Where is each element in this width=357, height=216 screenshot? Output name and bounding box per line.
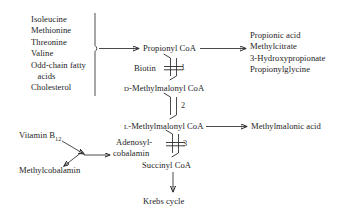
cofactor-adenosylcobalamin-line1: Adenosyl- <box>116 137 152 148</box>
reaction-number-1: 1 <box>181 63 185 72</box>
product-list: Propionic acid Methylcitrate 3-Hydroxypr… <box>250 30 325 76</box>
vitamin-b12-main: Vitamin B <box>19 130 55 140</box>
vitamin-b12-subscript: 12 <box>55 135 61 142</box>
metabolite-methylmalonic-acid: Methylmalonic acid <box>251 121 321 132</box>
reaction-number-2: 2 <box>181 101 185 110</box>
metabolite-succinyl-coa: Succinyl CoA <box>142 160 191 171</box>
substrate-bracket <box>95 13 97 96</box>
reaction-number-3: 3 <box>183 139 187 148</box>
metabolite-l-methylmalonyl-coa: L-Methylmalonyl CoA <box>124 121 203 132</box>
arrow-b12-to-junction <box>62 141 84 154</box>
metabolite-propionyl-coa: Propionyl CoA <box>143 43 196 54</box>
reaction-arrow-2 <box>171 97 177 115</box>
metabolite-krebs-cycle: Krebs cycle <box>143 196 184 207</box>
cofactor-vitamin-b12: Vitamin B12 <box>19 130 61 144</box>
cofactor-biotin: Biotin <box>134 63 156 74</box>
l-methylmalonyl-rest: -Methylmalonyl CoA <box>128 121 203 131</box>
metabolite-d-methylmalonyl-coa: D-Methylmalonyl CoA <box>124 83 204 94</box>
arrow-b12-to-methylcobalamin <box>64 152 82 166</box>
d-methylmalonyl-rest: -Methylmalonyl CoA <box>129 83 204 93</box>
cofactor-methylcobalamin: Methylcobalamin <box>19 165 80 176</box>
cofactor-adenosylcobalamin-line2: cobalamin <box>113 148 149 159</box>
pathway-diagram: Isoleucine Methionine Threonine Valine O… <box>0 0 357 216</box>
substrate-list: Isoleucine Methionine Threonine Valine O… <box>31 14 86 94</box>
